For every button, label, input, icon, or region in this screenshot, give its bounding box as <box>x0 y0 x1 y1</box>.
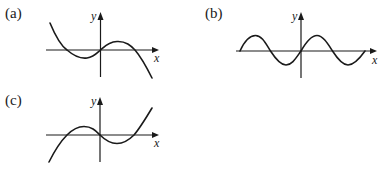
graphs-canvas: y x y x y x <box>0 0 391 175</box>
y-axis-label: y <box>90 9 97 23</box>
graph-c: y x <box>46 94 160 162</box>
y-axis-arrow-icon <box>97 97 103 105</box>
y-axis-label: y <box>90 94 97 108</box>
x-axis-label: x <box>371 53 378 67</box>
y-axis-label: y <box>291 9 298 23</box>
x-axis-label: x <box>153 136 160 150</box>
y-axis-arrow-icon <box>98 12 104 20</box>
x-axis-label: x <box>153 51 160 65</box>
graph-b: y x <box>236 9 378 78</box>
curve-b <box>240 36 365 66</box>
y-axis-arrow-icon <box>298 12 304 20</box>
graph-a: y x <box>46 9 160 78</box>
